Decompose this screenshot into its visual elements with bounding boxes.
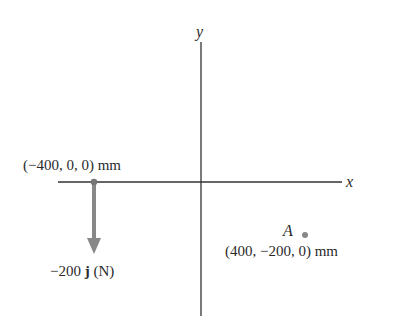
y-axis-label: y <box>196 24 203 40</box>
force-arrow-head <box>87 238 101 254</box>
force-value: −200 <box>50 263 81 279</box>
force-units: (N) <box>93 263 114 279</box>
force-application-point <box>91 179 98 186</box>
force-point-coords: (−400, 0, 0) mm <box>23 158 121 173</box>
force-label: −200 j (N) <box>50 264 114 279</box>
force-unit-vector: j <box>85 263 90 279</box>
x-axis-label: x <box>346 174 353 190</box>
point-a-coords: (400, −200, 0) mm <box>225 244 338 259</box>
point-a-marker <box>302 232 308 238</box>
point-a-label: A <box>283 223 293 239</box>
